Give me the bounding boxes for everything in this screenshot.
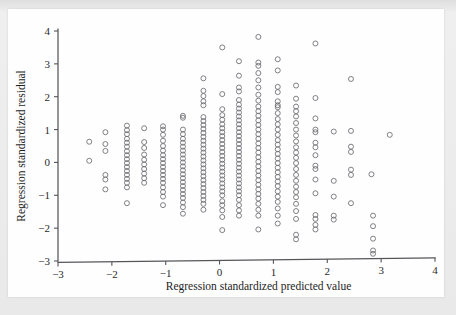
data-point [275,117,280,122]
data-point [294,201,299,206]
data-point [256,213,261,218]
data-point [348,149,353,154]
data-point [275,111,280,116]
data-point [256,85,261,90]
data-point [313,153,318,158]
data-point [294,216,299,221]
data-point [87,139,92,144]
data-point [348,76,353,81]
data-point [161,138,166,143]
data-point [275,127,280,132]
x-axis-tick-label: 3 [378,264,384,276]
data-point [103,187,108,192]
data-points [87,34,393,256]
x-axis-tick-label: −2 [106,268,118,280]
data-point [294,114,299,119]
x-axis-tick-label: 0 [217,266,223,278]
data-point [275,90,280,95]
data-point [348,128,353,133]
x-axis-title: Regression standardized predicted value [166,280,352,293]
data-point [275,194,280,199]
data-point [331,178,336,183]
y-axis-tick-label: 0 [45,156,51,168]
data-point [294,121,299,126]
data-point [275,84,280,89]
data-point [142,145,147,150]
x-axis-line [58,258,435,263]
data-point [161,132,166,137]
data-point [220,228,225,233]
data-point [275,206,280,211]
data-point [348,201,353,206]
data-point [256,201,261,206]
data-point [294,127,299,132]
data-point [220,214,225,219]
data-point [275,213,280,218]
data-point [201,88,206,93]
data-point [142,140,147,145]
data-point [256,71,261,76]
data-point [256,63,261,68]
scanned-figure-page: −3−2−101234−3−2−101234Regression standar… [0,0,456,315]
data-point [201,207,206,212]
data-point [256,207,261,212]
data-point [331,129,336,134]
data-point [371,236,376,241]
data-point [236,73,241,78]
data-point [275,57,280,62]
data-point [294,83,299,88]
data-point [161,127,166,132]
data-point [103,130,108,135]
data-point [275,132,280,137]
data-point [348,167,353,172]
y-axis: −3−2−101234 [38,25,58,267]
y-axis-tick-label: −3 [38,255,50,267]
data-point [142,126,147,131]
data-point [348,172,353,177]
data-point [371,213,376,218]
data-point [275,189,280,194]
data-point [236,59,241,64]
data-point [294,155,299,160]
y-axis-tick-label: 1 [45,124,51,136]
data-point [220,45,225,50]
x-axis-tick-label: −1 [160,267,172,279]
data-point [220,107,225,112]
data-point [313,116,318,121]
scatter-plot: −3−2−101234−3−2−101234Regression standar… [0,0,456,315]
data-point [294,161,299,166]
data-point [256,78,261,83]
data-point [142,152,147,157]
data-point [313,191,318,196]
data-point [294,167,299,172]
data-point [294,178,299,183]
data-point [313,177,318,182]
data-point [103,148,108,153]
data-point [236,203,241,208]
data-point [387,132,392,137]
data-point [161,203,166,208]
y-axis-tick-label: −1 [38,189,50,201]
data-point [201,76,206,81]
data-point [371,251,376,256]
y-axis-tick-label: 3 [45,58,51,70]
data-point [369,172,374,177]
x-axis-tick-label: 2 [325,265,331,277]
data-point [275,199,280,204]
data-point [294,96,299,101]
data-point [220,208,225,213]
data-point [294,139,299,144]
data-point [180,211,185,216]
x-axis: −3−2−101234 [52,258,438,281]
data-point [294,190,299,195]
x-axis-tick-label: −3 [52,268,64,280]
data-point [201,94,206,99]
data-point [256,227,261,232]
y-axis-tick-label: 2 [45,91,51,103]
data-point [256,92,261,97]
data-point [103,142,108,147]
data-point [87,158,92,163]
data-point [275,68,280,73]
data-point [371,224,376,229]
data-point [256,34,261,39]
